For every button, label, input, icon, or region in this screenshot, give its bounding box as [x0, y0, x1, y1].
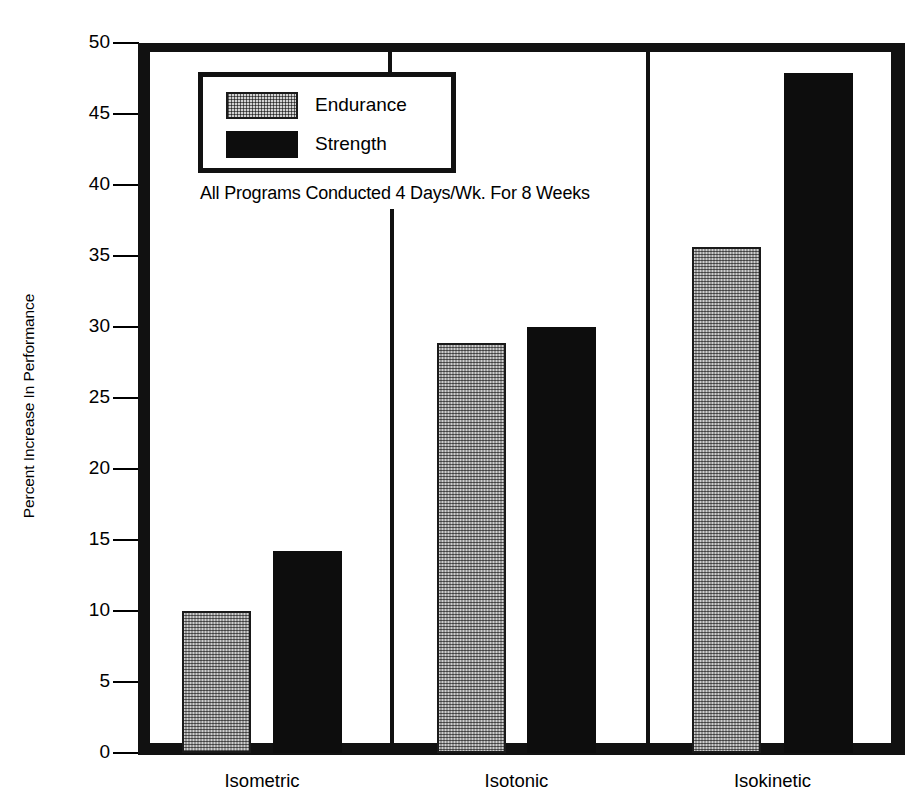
y-axis-tick-label: 20: [58, 458, 110, 478]
y-axis-tick-mark: [113, 539, 139, 541]
group-separator-line: [390, 209, 394, 753]
y-axis-tick-mark: [113, 397, 139, 399]
y-axis-tick-mark: [113, 681, 139, 683]
y-axis-tick-label: 10: [58, 600, 110, 620]
y-axis-tick-text: 35: [58, 245, 110, 265]
y-axis-tick-text: 0: [58, 742, 110, 762]
x-axis-label-isometric: Isometric: [142, 770, 382, 792]
legend-entry-strength: Strength: [226, 129, 387, 159]
y-axis-tick-text: 10: [58, 600, 110, 620]
legend-connector-line: [388, 48, 392, 74]
y-axis-tick-text: 40: [58, 174, 110, 194]
bar-isometric-endurance: [182, 611, 251, 753]
y-axis-tick-text: 50: [58, 32, 110, 52]
y-axis-tick-label: 50: [58, 32, 110, 52]
y-axis-tick-label: 30: [58, 316, 110, 336]
legend: Endurance Strength: [198, 72, 456, 173]
group-separator-line: [646, 48, 650, 753]
y-axis-tick-label: 15: [58, 529, 110, 549]
bar-isometric-strength: [273, 551, 342, 753]
y-axis-tick-mark: [113, 113, 139, 115]
y-axis-tick-label: 0: [58, 742, 110, 762]
y-axis-tick-label: 35: [58, 245, 110, 265]
y-axis-tick-text: 30: [58, 316, 110, 336]
legend-swatch-strength-icon: [226, 131, 298, 158]
x-axis-label-isokinetic: Isokinetic: [653, 770, 893, 792]
y-axis-tick-mark: [113, 610, 139, 612]
bar-isotonic-endurance: [437, 343, 506, 753]
y-axis-tick-label: 5: [58, 671, 110, 691]
y-axis-tick-text: 20: [58, 458, 110, 478]
y-axis-tick-text: 15: [58, 529, 110, 549]
y-axis-title: Percent Increase In Performance: [14, 0, 44, 812]
y-axis-tick-mark: [113, 468, 139, 470]
y-axis-tick-mark: [113, 326, 139, 328]
y-axis-tick-mark: [113, 255, 139, 257]
legend-label-strength: Strength: [315, 133, 387, 155]
bar-isokinetic-endurance: [692, 247, 761, 753]
y-axis-tick-mark: [113, 42, 139, 44]
legend-label-endurance: Endurance: [315, 94, 407, 116]
bar-isokinetic-strength: [784, 73, 853, 753]
y-axis-tick-text: 45: [58, 103, 110, 123]
bar-chart-figure: Percent Increase In Performance 05101520…: [0, 0, 923, 812]
y-axis-tick-label: 40: [58, 174, 110, 194]
chart-annotation: All Programs Conducted 4 Days/Wk. For 8 …: [200, 183, 590, 204]
y-axis-tick-text: 25: [58, 387, 110, 407]
y-axis-tick-text: 5: [58, 671, 110, 691]
y-axis-tick-label: 45: [58, 103, 110, 123]
x-axis-label-isotonic: Isotonic: [397, 770, 637, 792]
y-axis-tick-mark: [113, 752, 139, 754]
legend-swatch-endurance-icon: [226, 92, 298, 119]
legend-entry-endurance: Endurance: [226, 90, 407, 120]
y-axis-tick-mark: [113, 184, 139, 186]
y-axis-tick-label: 25: [58, 387, 110, 407]
bar-isotonic-strength: [527, 327, 596, 753]
